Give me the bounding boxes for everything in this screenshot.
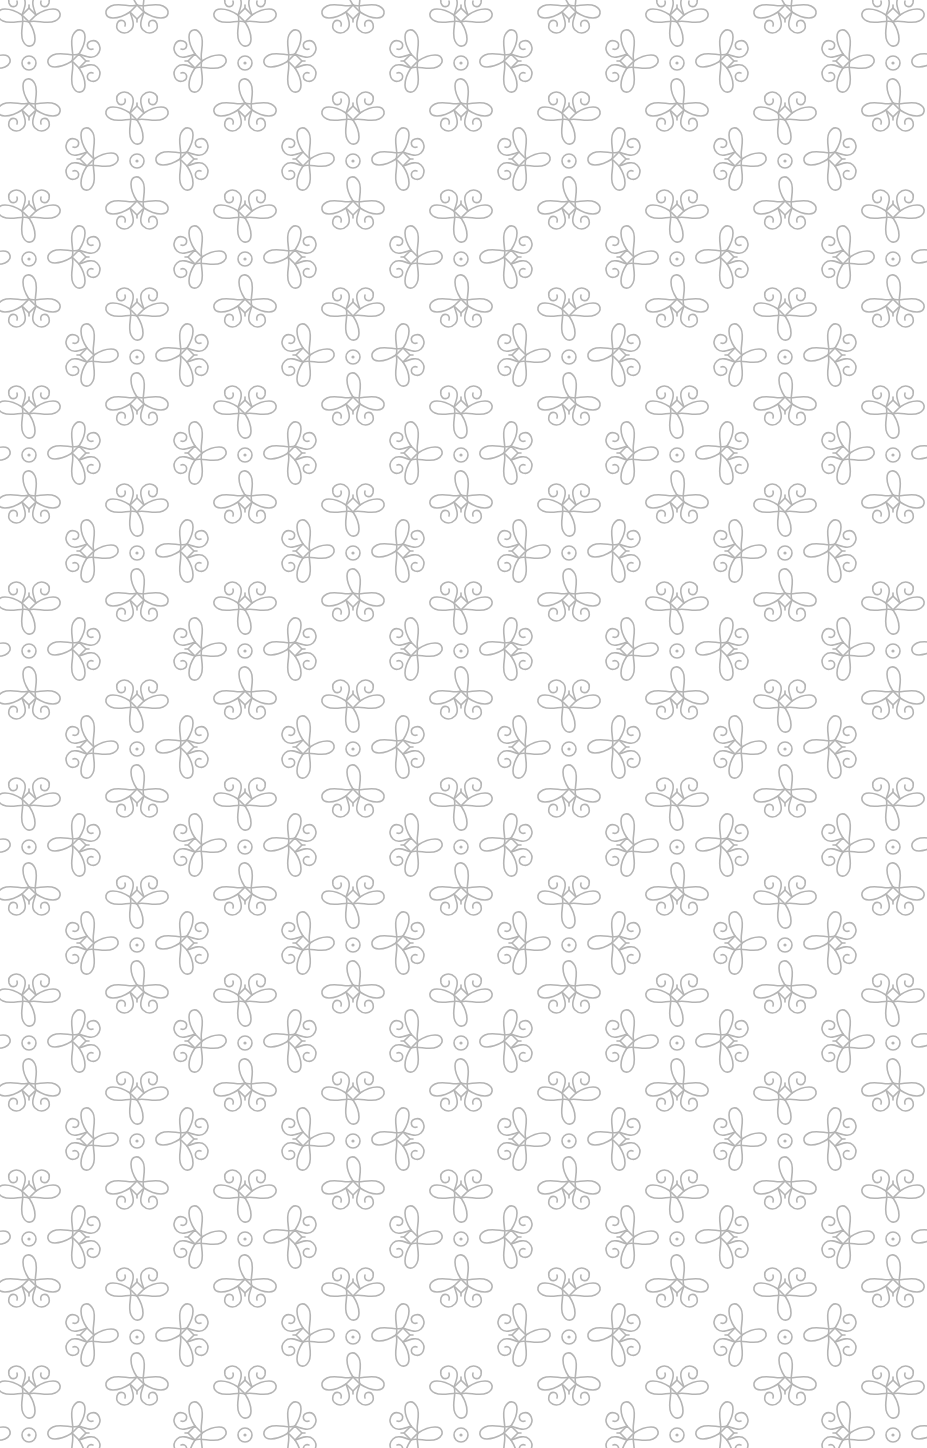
wallpaper-canvas	[0, 0, 927, 1448]
pattern-fill	[0, 0, 927, 1448]
swirl-pattern	[0, 0, 927, 1448]
